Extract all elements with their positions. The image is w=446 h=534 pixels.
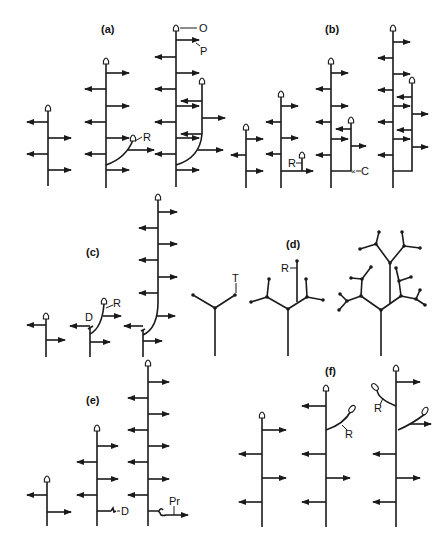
tree-a1 — [27, 105, 71, 186]
tree-a3: O P — [155, 22, 225, 187]
tree-b4 — [378, 25, 428, 188]
bud-icon — [101, 298, 106, 304]
panel-label-b: (b) — [325, 23, 339, 35]
annotation-C: C — [361, 165, 369, 177]
tree-d3 — [337, 230, 427, 356]
bud-icon — [45, 105, 50, 111]
annotation-T: T — [232, 272, 239, 284]
tree-c3 — [124, 194, 177, 357]
panel-b: (b) R — [231, 23, 428, 188]
bud-icon — [259, 412, 264, 418]
plant-architecture-diagram: (a) R — [0, 0, 446, 534]
bud-icon — [44, 476, 49, 482]
tree-b1 — [231, 124, 263, 188]
bud-icon — [328, 58, 333, 64]
bud-icon — [173, 25, 178, 31]
bud-icon — [390, 25, 395, 31]
annotation-Pr: Pr — [169, 495, 180, 507]
tree-c1 — [27, 313, 65, 357]
bud-icon — [278, 91, 283, 97]
annotation-R-f3: R — [374, 402, 382, 414]
tree-b3: × C — [316, 58, 369, 188]
bud-icon — [155, 194, 160, 200]
annotation-O: O — [199, 22, 208, 34]
bud-icon — [299, 152, 304, 158]
panel-label-a: (a) — [101, 23, 115, 35]
tree-e3: Pr — [128, 360, 188, 526]
bud-icon — [130, 135, 135, 141]
bud-icon — [94, 425, 99, 431]
annotation-R-f2: R — [345, 428, 353, 440]
tree-a2: R — [85, 58, 154, 188]
panel-d: (d) T — [191, 230, 427, 356]
annotation-D: D — [85, 311, 93, 323]
bud-icon — [43, 313, 48, 319]
bud-icon — [145, 360, 150, 366]
panel-label-d: (d) — [286, 238, 300, 250]
bud-icon — [243, 124, 248, 130]
bud-icon — [348, 117, 353, 123]
panel-a: (a) R — [27, 22, 225, 188]
panel-label-c: (c) — [86, 246, 100, 258]
bud-icon — [103, 58, 108, 64]
tree-e1 — [27, 476, 71, 526]
tree-d2: R — [249, 259, 325, 356]
tree-b2: R — [266, 91, 313, 188]
annotation-D: D — [121, 505, 129, 517]
tree-e2: D — [77, 425, 129, 526]
panel-c: (c) D R — [27, 194, 177, 357]
panel-e: (e) D — [27, 360, 188, 526]
cut-mark-icon: × — [351, 167, 356, 176]
tree-c2: D R — [70, 297, 121, 357]
tree-f1 — [239, 412, 286, 527]
bud-icon — [393, 365, 398, 371]
tree-f2: R — [302, 385, 356, 527]
tree-d1: T — [191, 272, 239, 356]
tree-f3: R — [370, 365, 431, 527]
bud-icon — [323, 385, 328, 391]
bud-icon — [199, 78, 204, 84]
panel-f: (f) R — [239, 365, 431, 527]
annotation-R: R — [113, 297, 121, 309]
annotation-R: R — [281, 262, 289, 274]
bud-icon — [409, 77, 414, 83]
annotation-R: R — [288, 157, 296, 169]
annotation-P: P — [200, 45, 207, 57]
annotation-R: R — [143, 131, 151, 143]
panel-label-e: (e) — [86, 394, 100, 406]
panel-label-f: (f) — [325, 365, 336, 377]
